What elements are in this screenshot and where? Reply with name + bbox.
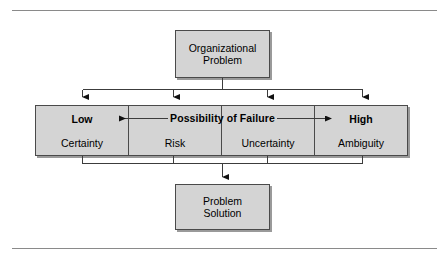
segment-risk: Risk bbox=[128, 106, 221, 155]
organizational-problem-line-1: Organizational bbox=[189, 42, 257, 54]
problem-solution-line-2: Solution bbox=[204, 207, 242, 219]
segment-certainty-label: Certainty bbox=[36, 131, 128, 155]
bottom-rule bbox=[12, 248, 437, 249]
diagram-canvas: Organizational Problem Low Certainty Ris… bbox=[0, 0, 445, 259]
problem-solution-line-1: Problem bbox=[203, 195, 242, 207]
segment-uncertainty-label: Uncertainty bbox=[222, 131, 314, 155]
segment-risk-label: Risk bbox=[129, 131, 221, 155]
segment-certainty: Low Certainty bbox=[36, 106, 128, 155]
top-rule bbox=[12, 10, 437, 11]
segment-ambiguity-label: Ambiguity bbox=[315, 131, 407, 155]
segment-certainty-emphasis: Low bbox=[36, 106, 128, 131]
segment-uncertainty: Uncertainty bbox=[221, 106, 314, 155]
failure-possibility-band: Low Certainty Risk Uncertainty High Ambi… bbox=[35, 105, 408, 156]
segment-uncertainty-emphasis bbox=[222, 106, 314, 131]
segment-ambiguity-emphasis: High bbox=[315, 106, 407, 131]
segment-ambiguity: High Ambiguity bbox=[314, 106, 407, 155]
organizational-problem-box: Organizational Problem bbox=[175, 30, 270, 78]
problem-solution-box: Problem Solution bbox=[175, 184, 270, 230]
segment-risk-emphasis bbox=[129, 106, 221, 131]
organizational-problem-line-2: Problem bbox=[203, 54, 242, 66]
